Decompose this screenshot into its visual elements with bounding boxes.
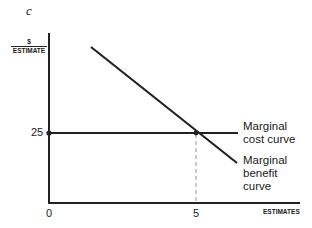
y-axis-label-denominator: ESTIMATE	[11, 47, 47, 55]
chart-canvas	[0, 0, 312, 228]
panel-label: c	[26, 3, 32, 19]
marginal-cost-label: Marginal cost curve	[243, 120, 295, 146]
marginal-benefit-label: Marginal benefit curve	[243, 154, 287, 193]
y-axis-label-numerator: $	[11, 38, 47, 47]
equilibrium-point	[194, 131, 199, 136]
x-axis-label: ESTIMATES	[263, 208, 300, 215]
x-tick-0: 0	[46, 207, 52, 219]
y-axis-label: $ ESTIMATE	[11, 38, 47, 55]
x-tick-5: 5	[193, 207, 199, 219]
y-tick-25: 25	[31, 126, 43, 138]
marginal-benefit-line	[91, 47, 237, 163]
y-intercept-point	[46, 130, 51, 135]
